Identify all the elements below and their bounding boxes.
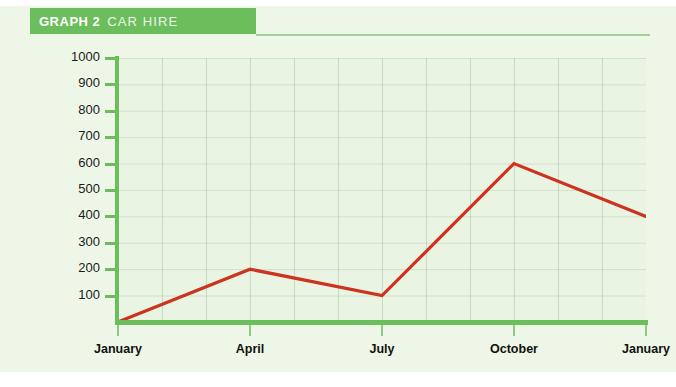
y-axis-tick-label: 600 — [54, 155, 100, 170]
y-axis-tick-label: 1000 — [54, 49, 100, 64]
y-axis-tick — [105, 215, 116, 218]
y-axis-tick — [105, 110, 116, 113]
y-axis-tick-label: 500 — [54, 181, 100, 196]
y-axis-tick — [105, 163, 116, 166]
y-axis-tick-label: 900 — [54, 75, 100, 90]
y-axis-tick-label: 400 — [54, 207, 100, 222]
x-axis-tick — [117, 325, 119, 336]
series-line-car-hire — [118, 164, 646, 322]
x-axis-tick-label: January — [94, 342, 142, 356]
y-axis-labels: 1000900800700600500400300200100 — [54, 0, 100, 387]
y-axis-tick — [105, 295, 116, 298]
series-svg — [118, 58, 646, 322]
x-axis-tick — [513, 325, 515, 336]
y-axis-tick-label: 300 — [54, 234, 100, 249]
y-axis-tick-label: 200 — [54, 260, 100, 275]
y-axis-tick — [105, 136, 116, 139]
y-axis-tick — [105, 189, 116, 192]
y-axis-tick — [105, 242, 116, 245]
x-axis-tick — [381, 325, 383, 336]
plot-area — [118, 58, 646, 322]
x-axis-tick — [249, 325, 251, 336]
x-axis-tick-label: April — [236, 342, 264, 356]
y-axis-tick-label: 100 — [54, 287, 100, 302]
graph-title-label: CAR HIRE — [107, 14, 178, 29]
x-axis-tick-label: January — [622, 342, 670, 356]
y-axis-tick — [105, 268, 116, 271]
x-axis-tick — [645, 325, 647, 336]
graph-card-root: GRAPH 2 CAR HIRE 10009008007006005004003… — [0, 0, 676, 387]
y-axis-tick-label: 800 — [54, 102, 100, 117]
y-axis-tick — [105, 83, 116, 86]
y-axis-tick — [105, 57, 116, 60]
x-axis-tick-label: October — [490, 342, 538, 356]
y-axis-tick-label: 700 — [54, 128, 100, 143]
header-divider — [256, 34, 650, 36]
x-axis-tick-label: July — [369, 342, 394, 356]
